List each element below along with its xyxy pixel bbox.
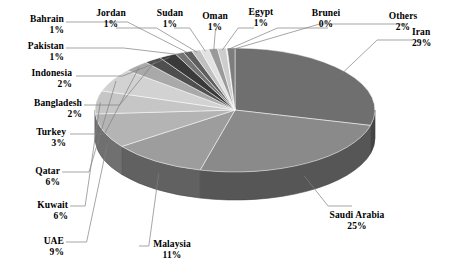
- slice-label-bahrain-name: Bahrain: [2, 14, 64, 25]
- slice-label-turkey-name: Turkey: [2, 127, 66, 138]
- slice-label-qatar-name: Qatar: [6, 166, 60, 177]
- slice-label-qatar: Qatar 6%: [6, 166, 60, 188]
- slice-label-jordan-percent: 1%: [85, 19, 137, 30]
- slice-label-uae-percent: 9%: [14, 247, 64, 258]
- slice-label-brunei: Brunei 0%: [300, 8, 352, 30]
- slice-label-indonesia-name: Indonesia: [2, 68, 72, 79]
- slice-label-sudan-percent: 1%: [146, 19, 194, 30]
- slice-label-saudi-arabia-percent: 25%: [314, 221, 400, 232]
- slice-label-bangladesh: Bangladesh 2%: [0, 98, 82, 120]
- slice-label-qatar-percent: 6%: [6, 177, 60, 188]
- slice-label-saudi-arabia: Saudi Arabia 25%: [314, 210, 400, 232]
- leader-line-iran: [342, 40, 412, 73]
- slice-label-turkey: Turkey 3%: [2, 127, 66, 149]
- slice-label-uae-name: UAE: [14, 236, 64, 247]
- slice-label-malaysia-percent: 11%: [137, 250, 207, 261]
- pie-top-layer: [95, 48, 375, 172]
- slice-label-bangladesh-name: Bangladesh: [0, 98, 82, 109]
- slice-label-pakistan-name: Pakistan: [2, 41, 64, 52]
- slice-label-iran: Iran 29%: [412, 27, 450, 49]
- slice-label-kuwait-percent: 6%: [8, 211, 68, 222]
- slice-label-oman: Oman 1%: [192, 11, 238, 33]
- slice-label-bangladesh-percent: 2%: [0, 109, 82, 120]
- slice-label-indonesia-percent: 2%: [2, 79, 72, 90]
- slice-label-egypt: Egypt 1%: [238, 7, 284, 29]
- slice-label-saudi-arabia-name: Saudi Arabia: [314, 210, 400, 221]
- slice-label-jordan-name: Jordan: [85, 8, 137, 19]
- slice-label-turkey-percent: 3%: [2, 138, 66, 149]
- slice-label-egypt-percent: 1%: [238, 18, 284, 29]
- slice-label-iran-percent: 29%: [412, 38, 450, 49]
- slice-label-pakistan: Pakistan 1%: [2, 41, 64, 63]
- leader-line-uae: [66, 144, 107, 242]
- slice-label-brunei-percent: 0%: [300, 19, 352, 30]
- slice-label-bahrain: Bahrain 1%: [2, 14, 64, 36]
- slice-label-malaysia: Malaysia 11%: [137, 239, 207, 261]
- slice-label-bahrain-percent: 1%: [2, 25, 64, 36]
- slice-label-brunei-name: Brunei: [300, 8, 352, 19]
- slice-label-sudan: Sudan 1%: [146, 8, 194, 30]
- slice-label-egypt-name: Egypt: [238, 7, 284, 18]
- slice-label-uae: UAE 9%: [14, 236, 64, 258]
- slice-label-indonesia: Indonesia 2%: [2, 68, 72, 90]
- slice-label-oman-name: Oman: [192, 11, 238, 22]
- slice-label-oman-percent: 1%: [192, 22, 238, 33]
- leader-line-pakistan: [66, 48, 181, 55]
- pie-chart: Bahrain 1% Pakistan 1% Indonesia 2% Bang…: [0, 0, 451, 271]
- slice-label-jordan: Jordan 1%: [85, 8, 137, 30]
- slice-label-kuwait-name: Kuwait: [8, 200, 68, 211]
- slice-label-sudan-name: Sudan: [146, 8, 194, 19]
- slice-label-kuwait: Kuwait 6%: [8, 200, 68, 222]
- leader-line-oman: [214, 30, 217, 51]
- slice-label-iran-name: Iran: [412, 27, 450, 38]
- slice-label-malaysia-name: Malaysia: [137, 239, 207, 250]
- slice-label-others-name: Others: [378, 11, 428, 22]
- slice-label-pakistan-percent: 1%: [2, 52, 64, 63]
